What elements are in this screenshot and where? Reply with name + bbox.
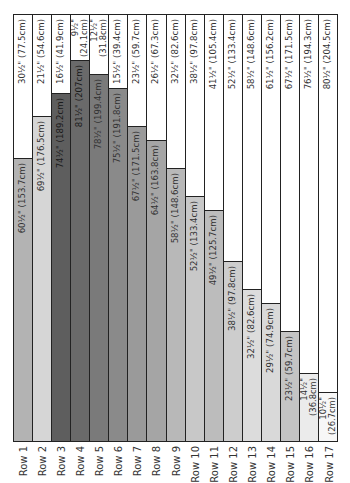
row-label-text: Row 1 <box>17 446 28 476</box>
filled-segment: 60½" (153.7cm) <box>14 158 32 441</box>
filled-value-label: 23½" (59.7cm) <box>285 336 294 401</box>
remaining-value-label: 41½" (105.4cm) <box>209 19 218 89</box>
remaining-segment: 67½" (171.5cm) <box>281 15 299 330</box>
bar-row-17: 80½" (204.5cm)10½"(26.7cm) <box>319 15 337 441</box>
filled-segment: 49½" (125.7cm) <box>205 210 223 441</box>
row-label: Row 1 <box>13 444 32 483</box>
filled-segment: 29½" (74.9cm) <box>262 303 280 441</box>
filled-segment: 81½" (207cm) <box>71 60 89 441</box>
remaining-value-label: 32½" (82.6cm) <box>171 19 180 84</box>
bar-row-4: 9½"(24.1cm)81½" (207cm) <box>71 15 90 441</box>
row-label-text: Row 5 <box>94 446 105 476</box>
bar-row-1: 30½" (77.5cm)60½" (153.7cm) <box>14 15 33 441</box>
remaining-segment: 52½" (133.4cm) <box>224 15 242 260</box>
bar-row-16: 76½" (194.3cm)14½"(36.8cm) <box>300 15 319 441</box>
row-label: Row 8 <box>147 444 166 483</box>
row-label: Row 17 <box>319 444 338 483</box>
remaining-segment: 12½"(31.8cm) <box>90 15 108 73</box>
remaining-value-label: 38½" (97.8cm) <box>190 19 199 84</box>
row-label-text: Row 15 <box>285 446 296 483</box>
row-label-text: Row 16 <box>304 446 315 483</box>
filled-value-label: 49½" (125.7cm) <box>209 215 218 285</box>
filled-value-label: 52½" (133.4cm) <box>190 201 199 271</box>
row-label: Row 11 <box>204 444 223 483</box>
remaining-segment: 15½" (39.4cm) <box>109 15 127 87</box>
filled-value-label: 75½" (191.8cm) <box>114 93 123 163</box>
row-label-text: Row 6 <box>113 446 124 476</box>
filled-segment: 14½"(36.8cm) <box>300 373 318 441</box>
remaining-value-label: 61½" (156.2cm) <box>266 19 275 89</box>
remaining-value-label: 67½" (171.5cm) <box>285 19 294 89</box>
filled-segment: 74½" (189.2cm) <box>52 93 70 441</box>
row-label-text: Row 14 <box>266 446 277 483</box>
filled-value-label: 74½" (189.2cm) <box>57 98 66 168</box>
filled-segment: 67½" (171.5cm) <box>128 126 146 441</box>
row-label-text: Row 11 <box>208 446 219 483</box>
bar-row-6: 15½" (39.4cm)75½" (191.8cm) <box>109 15 128 441</box>
bar-row-11: 41½" (105.4cm)49½" (125.7cm) <box>205 15 224 441</box>
bar-row-8: 26½" (67.3cm)64½" (163.8cm) <box>147 15 166 441</box>
remaining-value-label: 9½"(24.1cm) <box>71 19 89 57</box>
remaining-value-label: 80½" (204.5cm) <box>324 19 333 89</box>
filled-value-label: 64½" (163.8cm) <box>152 145 161 215</box>
remaining-segment: 9½"(24.1cm) <box>71 15 89 59</box>
bar-row-13: 58½" (148.6cm)32½" (82.6cm) <box>243 15 262 441</box>
remaining-segment: 38½" (97.8cm) <box>186 15 204 195</box>
bar-row-14: 61½" (156.2cm)29½" (74.9cm) <box>262 15 281 441</box>
remaining-segment: 58½" (148.6cm) <box>243 15 261 288</box>
remaining-value-label: 52½" (133.4cm) <box>228 19 237 89</box>
row-label-text: Row 7 <box>132 446 143 476</box>
remaining-segment: 23½" (59.7cm) <box>128 15 146 125</box>
filled-segment: 78½" (199.4cm) <box>90 74 108 441</box>
row-label: Row 3 <box>51 444 70 483</box>
row-label-text: Row 8 <box>151 446 162 476</box>
row-label-text: Row 12 <box>227 446 238 483</box>
remaining-value-label: 26½" (67.3cm) <box>152 19 161 84</box>
row-label-text: Row 10 <box>189 446 200 483</box>
remaining-value-label: 21½" (54.6cm) <box>38 19 47 84</box>
row-label: Row 10 <box>185 444 204 483</box>
bar-row-12: 52½" (133.4cm)38½" (97.8cm) <box>224 15 243 441</box>
remaining-segment: 76½" (194.3cm) <box>300 15 318 372</box>
row-label: Row 6 <box>109 444 128 483</box>
filled-value-label: 78½" (199.4cm) <box>95 79 104 149</box>
row-label: Row 9 <box>166 444 185 483</box>
remaining-segment: 16½" (41.9cm) <box>52 15 70 92</box>
filled-value-label: 67½" (171.5cm) <box>133 131 142 201</box>
bar-row-5: 12½"(31.8cm)78½" (199.4cm) <box>90 15 109 441</box>
row-label: Row 7 <box>128 444 147 483</box>
filled-segment: 10½"(26.7cm) <box>319 392 337 441</box>
row-label-text: Row 3 <box>55 446 66 476</box>
bar-row-7: 23½" (59.7cm)67½" (171.5cm) <box>128 15 147 441</box>
remaining-segment: 41½" (105.4cm) <box>205 15 223 209</box>
bar-row-2: 21½" (54.6cm)69½" (176.5cm) <box>33 15 52 441</box>
row-label: Row 14 <box>262 444 281 483</box>
remaining-value-label: 58½" (148.6cm) <box>247 19 256 89</box>
filled-segment: 75½" (191.8cm) <box>109 88 127 441</box>
remaining-value-label: 15½" (39.4cm) <box>114 19 123 84</box>
remaining-value-label: 12½"(31.8cm) <box>90 19 108 57</box>
remaining-segment: 80½" (204.5cm) <box>319 15 337 391</box>
filled-segment: 52½" (133.4cm) <box>186 196 204 441</box>
row-label: Row 13 <box>243 444 262 483</box>
remaining-segment: 32½" (82.6cm) <box>167 15 185 167</box>
filled-value-label: 38½" (97.8cm) <box>228 266 237 331</box>
remaining-segment: 30½" (77.5cm) <box>14 15 32 157</box>
row-label-text: Row 4 <box>74 446 85 476</box>
row-label-text: Row 2 <box>36 446 47 476</box>
row-label-text: Row 9 <box>170 446 181 476</box>
bar-row-15: 67½" (171.5cm)23½" (59.7cm) <box>281 15 300 441</box>
remaining-segment: 61½" (156.2cm) <box>262 15 280 302</box>
row-label: Row 5 <box>90 444 109 483</box>
remaining-segment: 26½" (67.3cm) <box>147 15 165 139</box>
remaining-value-label: 16½" (41.9cm) <box>57 19 66 84</box>
bar-row-3: 16½" (41.9cm)74½" (189.2cm) <box>52 15 71 441</box>
row-label-text: Row 17 <box>323 446 334 483</box>
remaining-value-label: 76½" (194.3cm) <box>304 19 313 89</box>
remaining-value-label: 23½" (59.7cm) <box>133 19 142 84</box>
row-label: Row 2 <box>32 444 51 483</box>
filled-segment: 64½" (163.8cm) <box>147 140 165 441</box>
remaining-value-label: 30½" (77.5cm) <box>19 19 28 84</box>
filled-value-label: 81½" (207cm) <box>76 65 85 127</box>
filled-value-label: 69½" (176.5cm) <box>38 121 47 191</box>
